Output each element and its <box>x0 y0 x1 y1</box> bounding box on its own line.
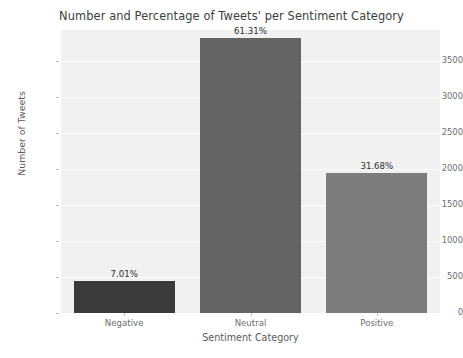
bar-negative[interactable] <box>74 281 175 313</box>
y-tick-mark <box>56 169 59 170</box>
y-tick-mark <box>56 97 59 98</box>
x-tick-label-positive: Positive <box>327 318 427 328</box>
x-tick-label-neutral: Neutral <box>201 318 301 328</box>
chart-title: Number and Percentage of Tweets' per Sen… <box>0 9 463 23</box>
y-tick-mark <box>56 205 59 206</box>
bar-label-positive: 31.68% <box>337 161 417 171</box>
x-axis-label: Sentiment Category <box>61 332 440 343</box>
y-tick-mark <box>56 277 59 278</box>
bar-neutral[interactable] <box>200 38 301 313</box>
bar-label-neutral: 61.31% <box>211 26 291 36</box>
bar-positive[interactable] <box>326 173 427 313</box>
x-tick-mark <box>377 313 378 316</box>
x-tick-mark <box>251 313 252 316</box>
y-axis-label: Number of Tweets <box>16 74 27 194</box>
y-tick-mark <box>56 313 59 314</box>
chart-figure: Number and Percentage of Tweets' per Sen… <box>0 0 463 358</box>
y-tick-mark <box>56 241 59 242</box>
x-tick-mark <box>124 313 125 316</box>
x-tick-label-negative: Negative <box>74 318 174 328</box>
y-tick-mark <box>56 133 59 134</box>
y-tick-mark <box>56 61 59 62</box>
bar-label-negative: 7.01% <box>84 269 164 279</box>
